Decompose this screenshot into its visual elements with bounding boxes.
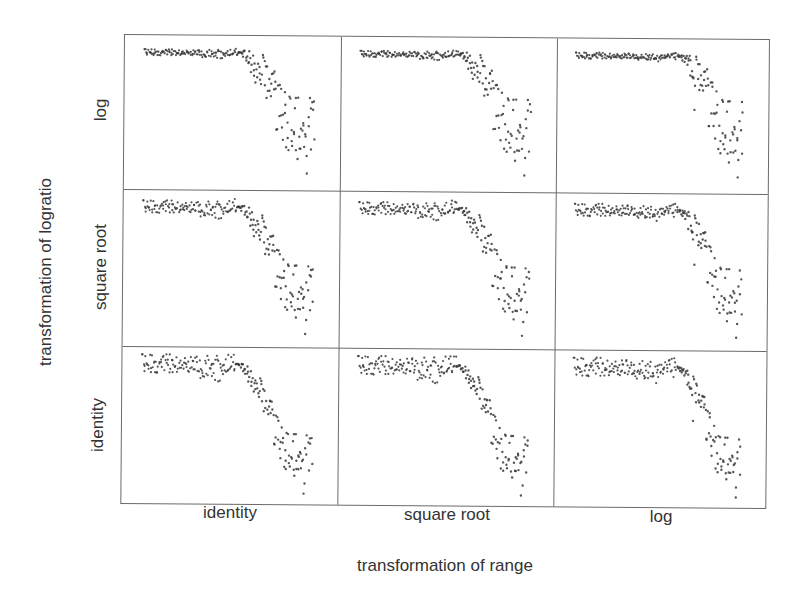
panel-log-identity xyxy=(124,35,341,191)
scatterplot-matrix-figure: transformation of logratio log square ro… xyxy=(0,0,809,591)
y-axis-title: transformation of logratio xyxy=(36,178,56,366)
panel-log-square-root xyxy=(340,37,557,193)
col-label-identity: identity xyxy=(203,503,257,523)
panel-log-log xyxy=(556,38,769,194)
row-label-log: log xyxy=(91,99,111,122)
row-label-square-root: square root xyxy=(91,224,111,310)
panel-identity-log xyxy=(553,349,766,508)
panel-sqrt-square-root xyxy=(339,191,556,350)
panel-sqrt-identity xyxy=(123,189,340,348)
panel-grid xyxy=(120,34,770,509)
panel-identity-identity xyxy=(121,346,338,505)
panel-sqrt-log xyxy=(555,192,768,351)
col-label-log: log xyxy=(650,507,673,527)
x-axis-title: transformation of range xyxy=(357,556,533,576)
row-label-identity: identity xyxy=(88,398,108,452)
panel-identity-square-root xyxy=(337,348,554,507)
col-label-square-root: square root xyxy=(404,505,490,525)
